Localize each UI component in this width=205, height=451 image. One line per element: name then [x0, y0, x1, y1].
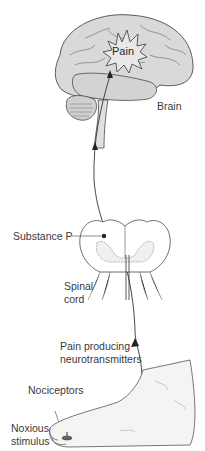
substance-p-dot	[102, 234, 106, 238]
spinal-cord-label-line1: Spinal	[64, 280, 93, 292]
brain-illustration	[55, 15, 193, 148]
neurotransmitters-label-line1: Pain producing	[60, 340, 130, 352]
pain-label: Pain	[112, 45, 134, 57]
brain-label: Brain	[157, 100, 182, 112]
neurotransmitters-label-line2: neurotransmitters	[60, 353, 142, 365]
foot-illustration	[49, 360, 194, 447]
arrow-icon	[131, 338, 139, 347]
noxious-stimulus-label-line1: Noxious	[11, 422, 49, 434]
substance-p-label: Substance P	[13, 230, 73, 242]
nociceptors-label: Nociceptors	[28, 384, 83, 396]
noxious-stimulus-label-line2: stimulus	[11, 435, 50, 447]
spinal-cord-cross-section	[80, 220, 170, 300]
spinal-cord-label-line2: cord	[64, 293, 84, 305]
